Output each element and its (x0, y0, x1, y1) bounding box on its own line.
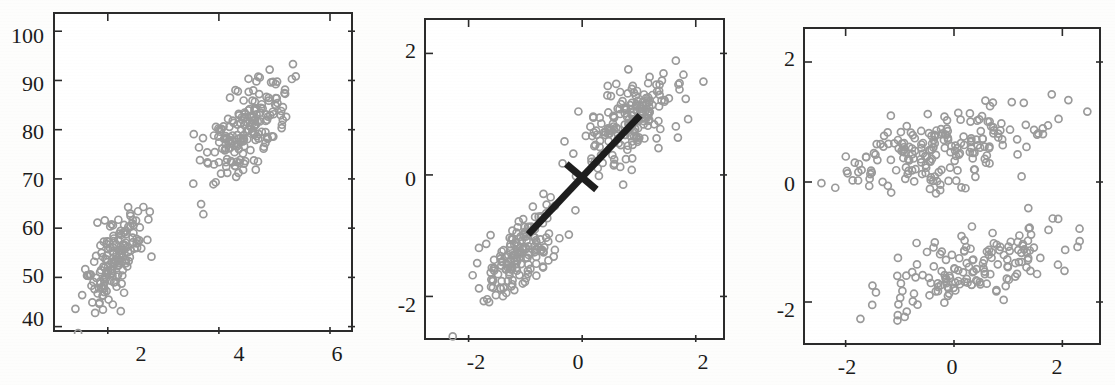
ytick-label: -2 (749, 297, 795, 323)
xtick-label: 4 (219, 341, 259, 367)
ytick-label: 2 (378, 38, 416, 64)
xtick-label: 2 (121, 341, 161, 367)
xtick-label: 2 (1037, 354, 1077, 380)
ytick-label: 80 (0, 119, 44, 145)
xtick-label: -2 (452, 349, 500, 375)
scatter-layer-raw-data (55, 14, 355, 334)
ytick-label: 50 (0, 263, 44, 289)
plot-frame-raw-data (53, 12, 353, 332)
plot-frame-standardized (424, 18, 725, 340)
ytick-label: 100 (0, 23, 44, 49)
ytick-label: -2 (370, 292, 416, 318)
ytick-label: 0 (757, 171, 795, 197)
ytick-label: 90 (0, 71, 44, 97)
scatter-layer-standardized (426, 20, 727, 342)
xtick-label: 6 (317, 341, 357, 367)
plot-frame-pca-rotated (803, 27, 1101, 345)
ytick-label: 40 (0, 306, 44, 332)
xtick-label: -2 (823, 354, 871, 380)
scatter-layer-pca-rotated (805, 29, 1103, 347)
xtick-label: 2 (683, 349, 723, 375)
xtick-label: 0 (932, 354, 972, 380)
xtick-label: 0 (558, 349, 598, 375)
ytick-label: 60 (0, 215, 44, 241)
ytick-label: 2 (757, 46, 795, 72)
pca-three-panel-figure: 100 90 80 70 60 50 40 2 4 6 2 0 -2 -2 0 … (0, 0, 1115, 385)
ytick-label: 0 (378, 166, 416, 192)
ytick-label: 70 (0, 167, 44, 193)
